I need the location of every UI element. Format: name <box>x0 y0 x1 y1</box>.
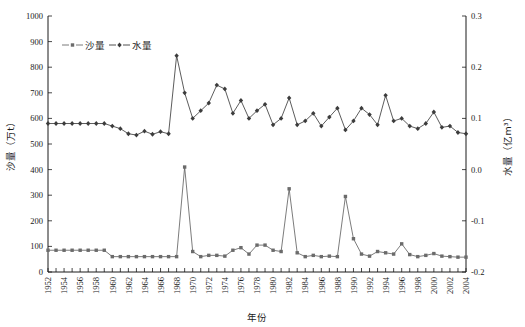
x-tick-label: 1982 <box>284 277 294 294</box>
y-tick-label-left: 200 <box>30 216 43 226</box>
data-point <box>175 255 178 258</box>
data-point <box>320 255 323 258</box>
data-point <box>54 249 57 252</box>
x-tick-label: 2002 <box>445 277 455 294</box>
data-point <box>111 255 114 258</box>
data-point <box>151 255 154 258</box>
y-tick-label-right: 0.3 <box>471 11 482 21</box>
data-point <box>336 255 339 258</box>
data-point <box>103 249 106 252</box>
y-tick-label-right: -0.2 <box>471 267 484 277</box>
x-tick-label: 1990 <box>349 277 359 294</box>
x-tick-label: 2004 <box>461 276 471 294</box>
data-point <box>408 253 411 256</box>
y-tick-label-left: 800 <box>30 62 43 72</box>
x-tick-label: 1968 <box>172 277 182 294</box>
y-tick-label-left: 900 <box>30 37 43 47</box>
data-point <box>376 250 379 253</box>
data-point <box>352 237 355 240</box>
y-tick-label-right: 0.1 <box>471 113 482 123</box>
data-point <box>392 252 395 255</box>
y-tick-label-left: 400 <box>30 165 43 175</box>
data-point <box>62 249 65 252</box>
chart-figure: 01002003004005006007008009001000 -0.2-0.… <box>0 0 525 327</box>
data-point <box>119 255 122 258</box>
data-point <box>287 187 290 190</box>
y-tick-label-left: 500 <box>30 139 43 149</box>
data-point <box>400 242 403 245</box>
data-point <box>231 249 234 252</box>
legend-label-1: 沙量 <box>85 40 105 51</box>
y-tick-label-left: 700 <box>30 88 43 98</box>
data-point <box>328 254 331 257</box>
y-tick-label-left: 300 <box>30 190 43 200</box>
data-point <box>279 250 282 253</box>
x-tick-label: 1986 <box>317 277 327 294</box>
data-point <box>295 251 298 254</box>
x-tick-label: 1966 <box>156 277 166 294</box>
data-point <box>223 254 226 257</box>
data-point <box>95 249 98 252</box>
data-point <box>440 254 443 257</box>
data-point <box>78 249 81 252</box>
legend-label-2: 水量 <box>132 40 152 51</box>
data-point <box>448 255 451 258</box>
data-point <box>135 255 138 258</box>
x-tick-label: 1958 <box>91 277 101 294</box>
y-tick-label-right: 0.0 <box>471 165 482 175</box>
data-point <box>199 255 202 258</box>
data-point <box>70 249 73 252</box>
y-tick-label-right: -0.1 <box>471 216 484 226</box>
data-point <box>159 255 162 258</box>
x-tick-label: 1976 <box>236 277 246 294</box>
data-point <box>384 251 387 254</box>
data-point <box>271 249 274 252</box>
y-tick-label-left: 100 <box>30 241 43 251</box>
x-tick-label: 1956 <box>75 277 85 294</box>
data-point <box>127 255 130 258</box>
data-point <box>344 195 347 198</box>
x-axis-title: 年份 <box>247 312 267 323</box>
x-tick-label: 1978 <box>252 277 262 294</box>
x-tick-label: 1962 <box>124 277 134 294</box>
y-tick-label-left: 1000 <box>26 11 43 21</box>
y-tick-label-left: 600 <box>30 113 43 123</box>
data-point <box>432 252 435 255</box>
x-tick-label: 1996 <box>397 277 407 294</box>
x-tick-label: 1974 <box>220 276 230 294</box>
x-tick-label: 1994 <box>381 276 391 294</box>
x-tick-label: 1992 <box>365 277 375 294</box>
data-point <box>86 249 89 252</box>
x-tick-label: 1988 <box>333 277 343 294</box>
x-tick-label: 1998 <box>413 277 423 294</box>
y-axis-left-title: 沙量（万t） <box>5 117 16 171</box>
x-tick-label: 1960 <box>108 277 118 294</box>
data-point <box>183 165 186 168</box>
y-axis-right-title: 水量（亿m³） <box>502 112 513 175</box>
data-point <box>167 255 170 258</box>
data-point <box>368 254 371 257</box>
data-point <box>255 243 258 246</box>
x-tick-label: 1970 <box>188 277 198 294</box>
x-tick-label: 1972 <box>204 277 214 294</box>
data-point <box>464 255 467 258</box>
data-point <box>456 255 459 258</box>
data-point <box>215 254 218 257</box>
data-point <box>191 250 194 253</box>
data-point <box>360 252 363 255</box>
x-tick-label: 1984 <box>300 276 310 294</box>
x-tick-label: 1952 <box>43 277 53 294</box>
data-point <box>263 243 266 246</box>
y-tick-label-right: 0.2 <box>471 62 482 72</box>
data-point <box>304 255 307 258</box>
data-point <box>424 254 427 257</box>
x-tick-label: 2000 <box>429 277 439 294</box>
data-point <box>312 254 315 257</box>
data-point <box>207 254 210 257</box>
y-tick-label-left: 0 <box>39 267 43 277</box>
data-point <box>416 255 419 258</box>
legend-marker-square <box>71 43 74 46</box>
x-tick-label: 1954 <box>59 276 69 294</box>
data-point <box>46 249 49 252</box>
x-tick-label: 1980 <box>268 277 278 294</box>
